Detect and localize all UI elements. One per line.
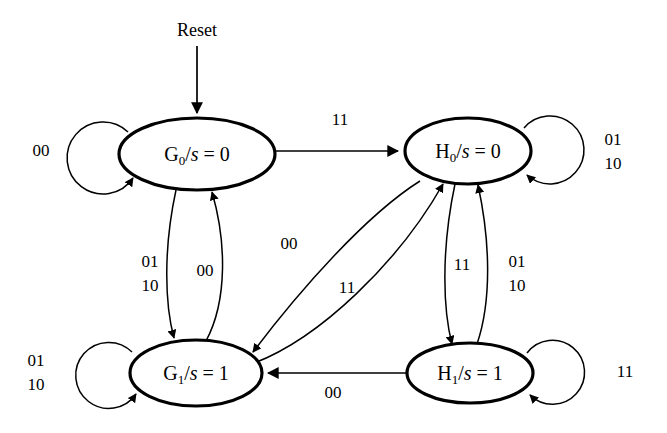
transition-G1-G0: 00	[197, 192, 223, 341]
transition-H0-G1: 00	[253, 181, 420, 352]
G0-G1-label-1: 01	[142, 252, 159, 271]
fsm-canvas: Reset 00 01 10 01 10 11 11	[0, 0, 667, 433]
G1-output-var: s	[190, 362, 198, 384]
G1-self-loop-label-2: 10	[28, 375, 45, 394]
transition-G1-H0: 11	[249, 184, 443, 365]
H1-equals: =	[472, 362, 493, 384]
G0-equals: =	[199, 143, 220, 165]
H0-self-loop-label-1: 01	[605, 130, 622, 149]
H1-output-value: 1	[493, 362, 503, 384]
G1-self-loop-path	[76, 342, 136, 408]
H0-self-loop-label-2: 10	[605, 154, 622, 173]
G0-H0-label: 11	[332, 110, 348, 129]
state-node-H1[interactable]: H1/s = 1	[407, 343, 533, 403]
H0-name: H	[435, 140, 449, 162]
transition-G1-self: 01 10	[28, 342, 137, 408]
G0-name: G	[164, 143, 178, 165]
H0-G1-path	[253, 181, 420, 352]
H1-label: H1/s = 1	[437, 362, 503, 387]
reset-arrow-group: Reset	[177, 20, 217, 113]
transition-H1-G1: 00	[268, 373, 406, 402]
transition-G0-G1: 01 10	[142, 190, 177, 338]
G0-G1-label-2: 10	[142, 276, 159, 295]
H1-output-var: s	[464, 362, 472, 384]
G0-self-loop-label: 00	[33, 141, 50, 160]
H1-self-loop-path	[527, 340, 585, 404]
transition-H0-H1: 11	[445, 184, 470, 344]
transition-H1-self: 11	[527, 340, 633, 404]
H1-H0-label-1: 01	[509, 252, 526, 271]
G1-G0-label: 00	[197, 261, 214, 280]
G1-label: G1/s = 1	[163, 362, 229, 387]
H0-output-value: 0	[491, 140, 501, 162]
reset-label: Reset	[177, 20, 217, 40]
H1-H0-label-2: 10	[509, 276, 526, 295]
transition-H0-self: 01 10	[524, 116, 622, 184]
H1-name: H	[437, 362, 451, 384]
H0-G1-label: 00	[281, 234, 298, 253]
G0-output-var: s	[191, 143, 199, 165]
state-node-G0[interactable]: G0/s = 0	[119, 118, 275, 190]
H1-H0-path	[477, 185, 488, 344]
H0-output-var: s	[462, 140, 470, 162]
H1-self-loop-label: 11	[617, 362, 633, 381]
transition-G0-H0: 11	[276, 110, 398, 151]
H0-label: H0/s = 0	[435, 140, 501, 165]
G1-H0-path	[249, 184, 443, 365]
G0-label: G0/s = 0	[164, 143, 230, 168]
G1-output-value: 1	[219, 362, 229, 384]
G1-name: G	[163, 362, 177, 384]
G0-G1-path	[167, 190, 176, 338]
H1-G1-label: 00	[325, 383, 342, 402]
H0-equals: =	[470, 140, 491, 162]
G1-H0-label: 11	[339, 278, 355, 297]
state-diagram: Reset 00 01 10 01 10 11 11	[0, 0, 667, 433]
G1-equals: =	[198, 362, 219, 384]
G0-output-value: 0	[220, 143, 230, 165]
H0-self-loop-path	[524, 116, 584, 184]
G1-self-loop-label-1: 01	[28, 351, 45, 370]
transition-H1-H0: 01 10	[477, 185, 526, 344]
H0-H1-label: 11	[454, 255, 470, 274]
state-node-G1[interactable]: G1/s = 1	[130, 340, 262, 406]
state-node-H0[interactable]: H0/s = 0	[405, 118, 531, 184]
